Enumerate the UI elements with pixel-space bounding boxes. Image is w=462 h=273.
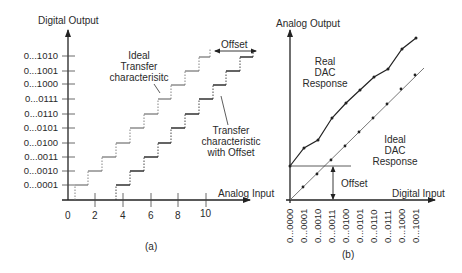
x-tick-label: 0...0010: [313, 209, 323, 243]
x-tick-label: 0...0001: [299, 209, 309, 243]
offset-label-a: Offset: [221, 39, 248, 50]
offset-label-b: Offset: [341, 178, 368, 189]
y-tick-label: 0...1001: [6, 66, 58, 76]
y-tick-label: 0...0111: [6, 94, 58, 104]
panel-a-y-axis-title: Digital Output: [38, 15, 99, 26]
panel-a-x-axis-title: Analog Input: [218, 188, 274, 199]
x-tick-label: 0: [65, 211, 71, 221]
ideal-transfer-label: Ideal Transfer characterisitc: [108, 50, 170, 83]
panel-a-caption: (a): [145, 241, 157, 252]
offset-transfer-label: Transfer characteristic with Offset: [200, 125, 262, 158]
x-tick-label: 2: [92, 211, 98, 221]
panel-b-caption: (b): [342, 249, 354, 260]
x-tick-label: 0...0110: [369, 209, 379, 243]
real-dac-label: Real DAC Response: [300, 56, 350, 89]
y-tick-label: 0...0100: [6, 138, 58, 148]
y-tick-label: 0...0101: [6, 123, 58, 133]
x-tick-label: 0...1000: [397, 209, 407, 243]
ideal-dac-label: Ideal DAC Response: [370, 134, 420, 167]
x-tick-label: 6: [148, 211, 154, 221]
x-tick-label: 0...0000: [285, 209, 295, 243]
y-tick-label: 0...0110: [6, 109, 58, 119]
x-tick-label: 0...0100: [341, 209, 351, 243]
y-tick-label: 0...0010: [6, 166, 58, 176]
x-tick-label: 10: [200, 209, 211, 219]
y-tick-label: 0...1010: [6, 51, 58, 61]
x-tick-label: 8: [175, 211, 181, 221]
x-tick-label: 0...0011: [327, 209, 337, 243]
offset-curve-pointer-line: [221, 96, 228, 125]
y-tick-label: 0...0001: [6, 180, 58, 190]
x-tick-label: 0...0111: [383, 210, 393, 243]
panel-b-x-axis-title: Digital Input: [392, 188, 445, 199]
y-tick-label: 0...1000: [6, 79, 58, 89]
x-tick-label: 0...0101: [355, 209, 365, 243]
x-tick-label: 4: [120, 211, 126, 221]
x-tick-label: 0...1001: [411, 209, 421, 243]
y-tick-label: 0...0011: [6, 152, 58, 162]
ideal-pointer-line: [154, 84, 160, 93]
panel-b-y-axis-title: Analog Output: [276, 18, 340, 29]
